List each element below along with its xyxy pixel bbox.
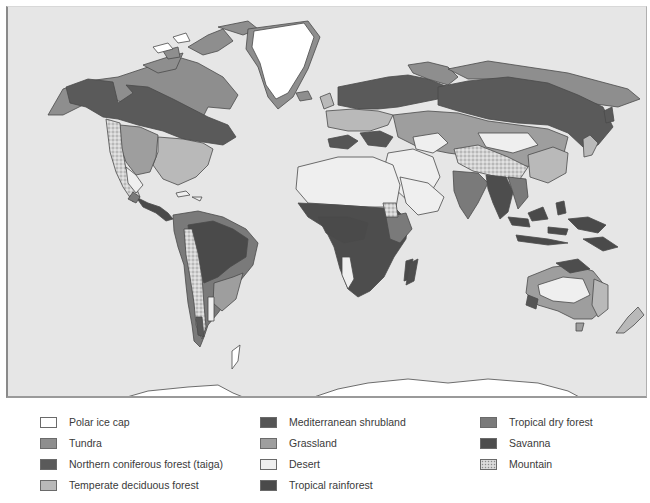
map-legend: Polar ice cap Tundra Northern coniferous…	[0, 410, 650, 500]
antarctica	[120, 385, 248, 398]
mountain-swatch-icon	[480, 459, 497, 470]
legend-label: Savanna	[509, 437, 550, 449]
legend-item-tundra: Tundra	[40, 434, 102, 452]
legend-label: Mountain	[509, 458, 552, 470]
antarctic-peninsula	[232, 345, 240, 369]
world-biome-map	[6, 6, 647, 398]
tropical-rainforest-swatch-icon	[260, 480, 277, 491]
legend-label: Mediterranean shrubland	[289, 416, 406, 428]
map-canvas	[8, 7, 647, 398]
africa	[296, 157, 413, 297]
legend-label: Northern coniferous forest (taiga)	[69, 458, 223, 470]
legend-label: Temperate deciduous forest	[69, 479, 199, 491]
legend-label: Grassland	[289, 437, 337, 449]
legend-item-polar-ice-cap: Polar ice cap	[40, 413, 130, 431]
legend-item-grassland: Grassland	[260, 434, 337, 452]
taiga-swatch-icon	[40, 459, 57, 470]
legend-item-mediterranean-shrubland: Mediterranean shrubland	[260, 413, 406, 431]
legend-item-savanna: Savanna	[480, 434, 550, 452]
arabia	[400, 177, 444, 215]
legend-item-taiga: Northern coniferous forest (taiga)	[40, 455, 223, 473]
south-america	[173, 211, 258, 347]
tundra-swatch-icon	[40, 438, 57, 449]
savanna-swatch-icon	[480, 438, 497, 449]
legend-label: Polar ice cap	[69, 416, 130, 428]
grassland-swatch-icon	[260, 438, 277, 449]
indonesia	[508, 201, 618, 251]
greenland	[246, 21, 320, 109]
north-america	[48, 21, 258, 221]
new-zealand	[616, 307, 644, 333]
legend-item-tropical-rainforest: Tropical rainforest	[260, 476, 373, 494]
temperate-deciduous-forest-swatch-icon	[40, 480, 57, 491]
legend-item-tropical-dry-forest: Tropical dry forest	[480, 413, 593, 431]
mediterranean-shrubland-swatch-icon	[260, 417, 277, 428]
legend-item-desert: Desert	[260, 455, 320, 473]
legend-item-temperate-deciduous-forest: Temperate deciduous forest	[40, 476, 199, 494]
antarctica-east	[308, 379, 583, 398]
legend-label: Tropical rainforest	[289, 479, 373, 491]
desert-swatch-icon	[260, 459, 277, 470]
australia	[526, 259, 608, 331]
legend-label: Desert	[289, 458, 320, 470]
legend-item-mountain: Mountain	[480, 455, 552, 473]
polar-ice-cap-swatch-icon	[40, 417, 57, 428]
legend-label: Tundra	[69, 437, 102, 449]
tropical-dry-forest-swatch-icon	[480, 417, 497, 428]
legend-label: Tropical dry forest	[509, 416, 593, 428]
